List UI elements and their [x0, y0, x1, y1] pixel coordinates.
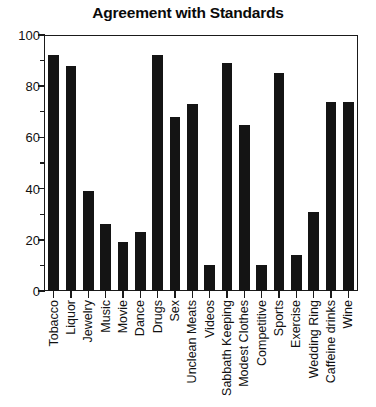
x-axis-tick — [330, 291, 332, 298]
bar-slot — [270, 35, 287, 291]
bar-slot — [132, 35, 149, 291]
y-axis-tick-label: 80 — [4, 79, 40, 94]
bar[interactable] — [326, 102, 337, 291]
x-axis-tick-label: Liquor — [65, 300, 78, 335]
bar[interactable] — [48, 55, 59, 291]
bar-slot — [322, 35, 339, 291]
x-axis-tick-label: Tobacco — [47, 300, 60, 347]
bar-slot — [97, 35, 114, 291]
bar[interactable] — [204, 265, 215, 291]
x-axis-tick — [157, 291, 159, 298]
bars-container — [45, 35, 357, 291]
x-axis-tick-label: Videos — [203, 300, 216, 338]
x-axis-tick-label: Dance — [134, 300, 147, 336]
y-axis-tick-label: 0 — [4, 284, 40, 299]
bar-slot — [114, 35, 131, 291]
bar[interactable] — [274, 73, 285, 291]
x-axis-tick-label: Jewelry — [82, 300, 95, 342]
x-axis-tick — [296, 291, 298, 298]
x-axis-tick — [348, 291, 350, 298]
x-axis-tick-label: Sports — [273, 300, 286, 336]
bar[interactable] — [291, 255, 302, 291]
bar-slot — [166, 35, 183, 291]
y-axis-tick-label: 100 — [4, 28, 40, 43]
y-axis-tick-label: 40 — [4, 181, 40, 196]
y-axis-tick-label: 60 — [4, 130, 40, 145]
bar[interactable] — [152, 55, 163, 291]
bar-slot — [201, 35, 218, 291]
x-axis-tick — [140, 291, 142, 298]
x-axis-tick — [53, 291, 55, 298]
bar[interactable] — [118, 242, 129, 291]
bar[interactable] — [256, 265, 267, 291]
bar[interactable] — [343, 102, 354, 291]
bar-slot — [253, 35, 270, 291]
x-axis-tick-label: Music — [99, 300, 112, 333]
bar-slot — [149, 35, 166, 291]
x-axis-tick-label: Modest Clothes — [238, 300, 251, 387]
x-axis-tick-label: Exercise — [290, 300, 303, 348]
x-axis-tick — [70, 291, 72, 298]
bar-slot — [218, 35, 235, 291]
x-axis-tick-label: Movie — [117, 300, 130, 333]
bar[interactable] — [308, 212, 319, 291]
x-axis-tick — [105, 291, 107, 298]
y-axis-tick-label: 20 — [4, 232, 40, 247]
bar[interactable] — [222, 63, 233, 291]
bar-slot — [288, 35, 305, 291]
x-axis-tick-label: Unclean Meats — [186, 300, 199, 383]
x-axis-tick-label: Sex — [169, 300, 182, 322]
bar[interactable] — [239, 125, 250, 291]
x-axis-labels: TobaccoLiquorJewelryMusicMovieDanceDrugs… — [45, 300, 357, 407]
x-axis-tick — [313, 291, 315, 298]
bar[interactable] — [100, 224, 111, 291]
bar[interactable] — [83, 191, 94, 291]
x-axis-tick — [192, 291, 194, 298]
x-axis-tick — [278, 291, 280, 298]
x-axis-tick-label: Caffeine drinks — [325, 300, 338, 383]
x-axis-tick — [88, 291, 90, 298]
bar-slot — [236, 35, 253, 291]
x-axis-tick — [244, 291, 246, 298]
bar-slot — [62, 35, 79, 291]
x-axis-tick — [261, 291, 263, 298]
bar-slot — [305, 35, 322, 291]
x-axis-tick-label: Drugs — [151, 300, 164, 333]
x-axis-tick — [226, 291, 228, 298]
x-axis-tick — [209, 291, 211, 298]
bar[interactable] — [135, 232, 146, 291]
bar-slot — [45, 35, 62, 291]
bar-slot — [340, 35, 357, 291]
bar[interactable] — [66, 66, 77, 291]
bar[interactable] — [187, 104, 198, 291]
x-axis-tick-label: Sabbath Keeping — [221, 300, 234, 396]
chart-title: Agreement with Standards — [0, 4, 376, 22]
y-axis-labels: 020406080100 — [0, 0, 40, 407]
bar[interactable] — [170, 117, 181, 291]
bar-slot — [80, 35, 97, 291]
bar-chart: Agreement with Standards 020406080100 To… — [0, 0, 376, 407]
x-axis-tick — [122, 291, 124, 298]
bar-slot — [184, 35, 201, 291]
x-axis-tick — [174, 291, 176, 298]
x-axis-tick-label: Wine — [342, 300, 355, 328]
x-axis-tick-label: Wedding Ring — [307, 300, 320, 378]
x-axis-tick-label: Competitive — [255, 300, 268, 366]
